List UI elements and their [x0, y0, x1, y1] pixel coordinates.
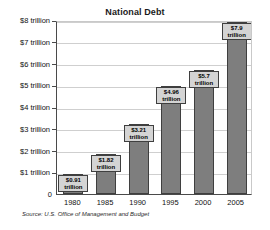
- gridline: [57, 109, 251, 110]
- gridline: [57, 152, 251, 153]
- bar-value-label: $4.96trillion: [156, 87, 186, 104]
- y-axis-tick-label: $2 trillion: [0, 147, 50, 156]
- x-axis-tick-label: 1990: [122, 198, 154, 207]
- gridline: [57, 87, 251, 88]
- chart-figure: National Debt 0$1 trillion$2 trillion$3 …: [0, 0, 270, 230]
- y-axis-tick-label: $8 trillion: [0, 16, 50, 25]
- bar-value-label-line: trillion: [125, 134, 153, 141]
- x-axis-tick-label: 1980: [56, 198, 88, 207]
- bar-group[interactable]: $0.91trillion: [63, 22, 83, 194]
- y-axis-tick-label: $5 trillion: [0, 81, 50, 90]
- y-axis-tick-label: $6 trillion: [0, 60, 50, 69]
- bar-value-label: $7.9trillion: [222, 23, 252, 40]
- bar[interactable]: [194, 70, 214, 194]
- source-note: Source: U.S. Office of Management and Bu…: [22, 211, 149, 217]
- bar-value-label-line: trillion: [92, 164, 120, 171]
- y-axis-tick-label: $3 trillion: [0, 125, 50, 134]
- y-axis-tick-label: $4 trillion: [0, 103, 50, 112]
- bar-value-label: $3.21trillion: [124, 125, 154, 142]
- bar-group[interactable]: $5.7trillion: [194, 22, 214, 194]
- x-axis-tick-label: 1995: [154, 198, 186, 207]
- bar-group[interactable]: $3.21trillion: [129, 22, 149, 194]
- gridline: [57, 43, 251, 44]
- x-axis-tick-label: 2000: [187, 198, 219, 207]
- bar-group[interactable]: $7.9trillion: [227, 22, 247, 194]
- bar-value-label-line: trillion: [59, 184, 87, 191]
- x-axis-tick-label: 2005: [220, 198, 252, 207]
- bar-value-label-line: trillion: [157, 96, 185, 103]
- bar-group[interactable]: $4.96trillion: [161, 22, 181, 194]
- bar[interactable]: [227, 22, 247, 194]
- bar-value-label: $1.82trillion: [91, 155, 121, 172]
- gridline: [57, 130, 251, 131]
- y-axis-tick-label: $1 trillion: [0, 168, 50, 177]
- bar-value-label: $5.7trillion: [189, 71, 219, 88]
- gridline: [57, 65, 251, 66]
- bar-value-label-line: trillion: [223, 32, 251, 39]
- y-axis-tick-label: $7 trillion: [0, 38, 50, 47]
- y-axis-tick-label: 0: [40, 190, 52, 199]
- bar-value-label-line: trillion: [190, 80, 218, 87]
- bar-group[interactable]: $1.82trillion: [96, 22, 116, 194]
- plot-area: $0.91trillion$1.82trillion$3.21trillion$…: [56, 21, 252, 195]
- bar-value-label: $0.91trillion: [58, 175, 88, 192]
- x-axis-tick-label: 1985: [89, 198, 121, 207]
